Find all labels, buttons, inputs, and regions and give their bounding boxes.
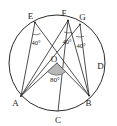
angle-label-O: 80° — [50, 76, 60, 84]
angle-arc-G — [76, 36, 84, 37]
point-label-G: G — [79, 12, 86, 22]
vertex-dot-F — [67, 20, 69, 22]
point-label-C: C — [55, 115, 61, 125]
circle-geometry-figure: E F G D B C A O 40° 40° 40° 80° — [0, 0, 117, 126]
angle-label-E: 40° — [31, 39, 41, 46]
angle-label-G: 40° — [76, 42, 86, 49]
vertex-dot-B — [88, 95, 90, 97]
point-label-E: E — [28, 11, 34, 21]
vertex-dot-G — [79, 24, 81, 26]
vertex-dot-E — [34, 22, 36, 24]
angle-label-F: 40° — [62, 38, 72, 45]
point-label-B: B — [85, 98, 91, 108]
point-label-O: O — [51, 54, 58, 64]
vertex-dot-A — [20, 95, 22, 97]
point-label-A: A — [12, 98, 19, 108]
angle-arc-E — [33, 34, 41, 35]
point-label-F: F — [61, 8, 66, 18]
geometry-diagram: E F G D B C A O 40° 40° 40° 80° — [0, 0, 117, 126]
point-label-D: D — [97, 61, 104, 71]
